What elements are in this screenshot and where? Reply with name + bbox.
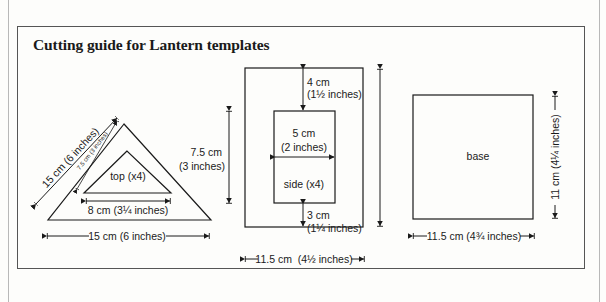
side-height-cm-label: 7.5 cm [190,146,222,158]
window-width-cm-label: 5 cm [293,127,316,139]
base-width-label: 11.5 cm (4¾ inches) [427,230,521,242]
base-piece: base 11 cm (4¼ inches) 11.5 cm (4¾ inche… [413,95,561,242]
side-piece: 7.5 cm (3 inches) 4 cm (1½ inches) 5 cm … [179,68,380,265]
side-piece-label: side (x4) [284,178,324,190]
outer-side-label: 15 cm (6 inches) [39,125,101,190]
outer-side-dimension-line [36,118,117,204]
outer-base-label: 15 cm (6 inches) [88,230,166,242]
base-piece-label: base [467,150,490,162]
cutting-guide-diagram: top (x4) 15 cm (6 inches) 7.5 cm (3 inch… [0,0,606,302]
bottom-margin-cm-label: 3 cm [307,209,330,221]
side-width-label: 11.5 cm (4½ inches) [255,253,352,265]
bottom-margin-in-label: (1¼ inches) [307,222,362,234]
top-margin-cm-label: 4 cm [307,76,330,88]
triangle-piece: top (x4) 15 cm (6 inches) 7.5 cm (3 inch… [36,118,211,242]
top-piece-label: top (x4) [110,170,146,182]
inner-base-label: 8 cm (3¼ inches) [88,204,169,216]
base-height-label: 11 cm (4¼ inches) [549,114,561,200]
side-height-in-label: (3 inches) [179,160,225,172]
top-margin-in-label: (1½ inches) [307,88,362,100]
window-width-in-label: (2 inches) [281,141,327,153]
